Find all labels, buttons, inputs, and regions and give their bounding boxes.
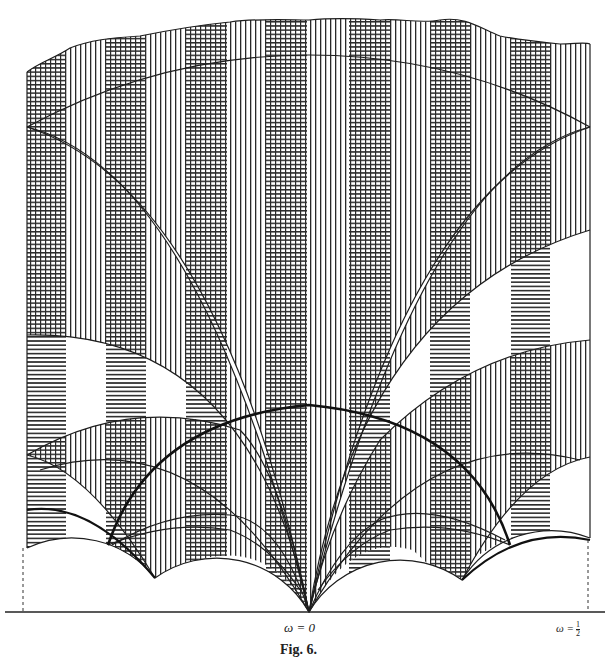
figure-caption: Fig. 6. [280, 642, 317, 658]
fraction: 12 [576, 621, 580, 638]
omega-half-label: ω =12 [556, 621, 580, 638]
omega-zero-label: ω = 0 [284, 620, 315, 636]
omega-half-prefix: ω = [556, 622, 574, 634]
fraction-denominator: 2 [576, 630, 580, 638]
tessellation-diagram [0, 0, 614, 667]
